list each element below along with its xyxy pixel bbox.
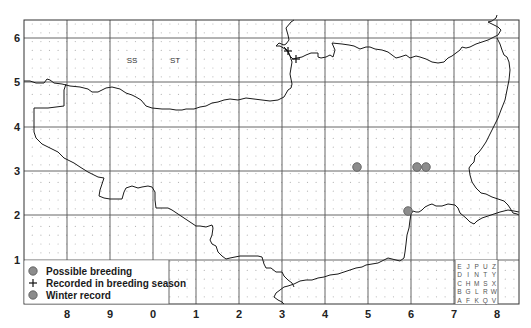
grid-dot	[419, 279, 420, 280]
grid-dot	[298, 191, 299, 192]
grid-dot	[350, 103, 351, 104]
grid-dot	[169, 182, 170, 183]
grid-dot	[92, 129, 93, 130]
grid-dot	[505, 138, 506, 139]
grid-dot	[273, 182, 274, 183]
grid-dot	[316, 235, 317, 236]
grid-dot	[427, 208, 428, 209]
grid-dot	[333, 76, 334, 77]
grid-dot	[221, 129, 222, 130]
grid-dot	[58, 120, 59, 121]
grid-dot	[273, 296, 274, 297]
grid-dot	[101, 103, 102, 104]
grid-dot	[479, 120, 480, 121]
grid-dot	[178, 67, 179, 68]
grid-dot	[118, 103, 119, 104]
grid-dot	[307, 270, 308, 271]
grid-dot	[144, 226, 145, 227]
grid-dot	[462, 32, 463, 33]
grid-dot	[445, 67, 446, 68]
grid-dot	[92, 199, 93, 200]
grid-dot	[290, 279, 291, 280]
grid-dot	[58, 147, 59, 148]
grid-dot	[161, 111, 162, 112]
grid-dot	[359, 41, 360, 42]
grid-dot	[32, 243, 33, 244]
grid-dot	[49, 252, 50, 253]
grid-dot	[290, 120, 291, 121]
grid-dot	[92, 59, 93, 60]
grid-dot	[427, 217, 428, 218]
grid-dot	[393, 76, 394, 77]
grid-dot	[178, 235, 179, 236]
grid-dot	[264, 217, 265, 218]
grid-dot	[144, 120, 145, 121]
grid-dot	[75, 67, 76, 68]
grid-dot	[204, 270, 205, 271]
grid-dot	[445, 164, 446, 165]
grid-dot	[178, 50, 179, 51]
grid-dot	[135, 67, 136, 68]
grid-dot	[419, 59, 420, 60]
grid-dot	[341, 252, 342, 253]
grid-dot	[101, 252, 102, 253]
grid-dot	[230, 103, 231, 104]
grid-dot	[479, 199, 480, 200]
grid-dot	[384, 67, 385, 68]
grid-dot	[161, 191, 162, 192]
grid-dot	[118, 217, 119, 218]
grid-dot	[264, 111, 265, 112]
grid-dot	[144, 182, 145, 183]
grid-dot	[505, 76, 506, 77]
grid-dot	[230, 67, 231, 68]
grid-dot	[290, 182, 291, 183]
grid-dot	[135, 164, 136, 165]
grid-dot	[187, 296, 188, 297]
grid-dot	[75, 191, 76, 192]
grid-dot	[212, 50, 213, 51]
grid-dot	[488, 217, 489, 218]
tetrad-key-letter: E	[457, 263, 462, 270]
grid-dot	[436, 243, 437, 244]
grid-dot	[307, 243, 308, 244]
grid-dot	[298, 103, 299, 104]
grid-dot	[178, 85, 179, 86]
grid-dot	[169, 50, 170, 51]
grid-dot	[384, 103, 385, 104]
grid-dot	[376, 164, 377, 165]
grid-dot	[298, 155, 299, 156]
grid-dot	[402, 94, 403, 95]
grid-dot	[479, 243, 480, 244]
grid-dot	[402, 173, 403, 174]
grid-dot	[58, 235, 59, 236]
grid-dot	[32, 182, 33, 183]
grid-dot	[393, 129, 394, 130]
grid-dot	[436, 208, 437, 209]
grid-dot	[126, 164, 127, 165]
grid-dot	[255, 279, 256, 280]
grid-dot	[161, 129, 162, 130]
grid-dot	[505, 173, 506, 174]
grid-dot	[376, 287, 377, 288]
grid-dot	[49, 208, 50, 209]
grid-dot	[316, 111, 317, 112]
grid-dot	[479, 67, 480, 68]
grid-dot	[255, 217, 256, 218]
grid-dot	[187, 85, 188, 86]
grid-dot	[316, 138, 317, 139]
grid-dot	[513, 164, 514, 165]
grid-dot	[505, 252, 506, 253]
grid-dot	[101, 173, 102, 174]
grid-dot	[75, 226, 76, 227]
east-coastline	[469, 38, 519, 215]
grid-dot	[230, 217, 231, 218]
grid-dot	[212, 59, 213, 60]
grid-dot	[169, 173, 170, 174]
grid-dot	[255, 287, 256, 288]
x-axis-label: 1	[193, 308, 199, 320]
grid-dot	[470, 191, 471, 192]
grid-dot	[264, 279, 265, 280]
grid-dot	[488, 147, 489, 148]
grid-dot	[212, 155, 213, 156]
grid-dot	[436, 173, 437, 174]
